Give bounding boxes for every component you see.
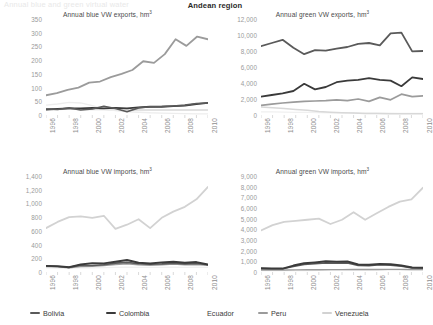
- y-tick-label: 100: [31, 84, 42, 91]
- y-tick-label: 0: [38, 269, 42, 276]
- y-tick-label: 6,000: [241, 64, 257, 71]
- legend-item-venezuela[interactable]: Venezuela: [322, 306, 369, 320]
- x-tick-label: 2002: [118, 118, 125, 133]
- x-axis-blue-exports: 19961998200020022004200620082010: [46, 118, 208, 162]
- y-tick-label: 0: [253, 269, 257, 276]
- y-tick-label: 8,000: [241, 183, 257, 190]
- legend-label: Venezuela: [335, 309, 369, 318]
- x-tick-label: 2000: [310, 118, 317, 133]
- series-canvas-blue-exports: [46, 19, 208, 115]
- legend-item-bolivia[interactable]: Bolivia: [30, 306, 64, 320]
- y-tick-label: 9,000: [241, 173, 257, 180]
- x-tick-label: 1998: [72, 118, 79, 133]
- x-tick-label: 2002: [333, 275, 340, 290]
- plot-area-green-exports: 02,0004,0006,0008,00010,00012,0001996199…: [215, 19, 430, 164]
- x-tick-label: 1996: [49, 275, 56, 290]
- y-axis-green-exports: 02,0004,0006,0008,00010,00012,000: [215, 19, 259, 115]
- series-line-peru: [261, 269, 423, 270]
- panel-blue-imports: Annual blue VW imports, hm30200400600800…: [0, 165, 215, 321]
- x-tick-label: 2004: [356, 118, 363, 133]
- chart-title-superscript: 3: [149, 10, 152, 15]
- legend-swatch-icon: [30, 312, 40, 315]
- y-tick-label: 250: [31, 43, 42, 50]
- y-tick-label: 400: [31, 241, 42, 248]
- chart-title-superscript: 3: [367, 167, 370, 172]
- series-line-venezuela: [261, 188, 423, 231]
- chart-legend: BoliviaColombiaEcuadorPeruVenezuela: [0, 306, 430, 322]
- series-line-colombia: [261, 77, 423, 96]
- legend-label: Peru: [271, 309, 286, 318]
- y-tick-label: 150: [31, 70, 42, 77]
- series-line-peru: [261, 94, 423, 105]
- y-tick-label: 4,000: [241, 80, 257, 87]
- y-tick-label: 50: [35, 98, 42, 105]
- y-tick-label: 4,000: [241, 226, 257, 233]
- panel-green-imports: Annual green VW imports, hm301,0002,0003…: [215, 165, 430, 321]
- x-tick-label: 2000: [95, 275, 102, 290]
- y-axis-blue-exports: 050100150200250300350: [0, 19, 44, 115]
- y-tick-label: 6,000: [241, 205, 257, 212]
- x-axis-green-exports: 19961998200020022004200620082010: [261, 118, 423, 162]
- x-tick-label: 1998: [287, 275, 294, 290]
- y-tick-label: 1,200: [26, 186, 42, 193]
- x-tick-label: 1998: [72, 275, 79, 290]
- series-line-peru: [46, 37, 208, 96]
- y-axis-blue-imports: 02004006008001,0001,2001,400: [0, 176, 44, 272]
- legend-label: Ecuador: [207, 309, 234, 318]
- x-tick-label: 1996: [264, 275, 271, 290]
- x-tick-label: 2010: [426, 275, 433, 290]
- x-tick-label: 2008: [402, 275, 409, 290]
- x-tick-label: 2004: [356, 275, 363, 290]
- x-tick-label: 2006: [379, 275, 386, 290]
- y-tick-label: 12,000: [237, 16, 257, 23]
- y-tick-label: 1,000: [26, 200, 42, 207]
- y-tick-label: 350: [31, 16, 42, 23]
- x-tick-label: 2010: [426, 118, 433, 133]
- panel-blue-exports: Annual blue VW exports, hm30501001502002…: [0, 8, 215, 164]
- x-tick-label: 2006: [164, 118, 171, 133]
- y-tick-label: 0: [38, 112, 42, 119]
- x-tick-label: 1998: [287, 118, 294, 133]
- x-tick-label: 2000: [95, 118, 102, 133]
- y-tick-label: 5,000: [241, 215, 257, 222]
- x-tick-label: 2008: [187, 275, 194, 290]
- panel-green-exports: Annual green VW exports, hm302,0004,0006…: [215, 8, 430, 164]
- x-tick-label: 2002: [118, 275, 125, 290]
- x-tick-label: 2000: [310, 275, 317, 290]
- x-tick-label: 2004: [141, 118, 148, 133]
- y-tick-label: 0: [253, 112, 257, 119]
- chart-title-superscript: 3: [367, 10, 370, 15]
- y-tick-label: 200: [31, 57, 42, 64]
- legend-item-ecuador[interactable]: Ecuador: [194, 306, 234, 320]
- y-tick-label: 7,000: [241, 194, 257, 201]
- y-tick-label: 200: [31, 255, 42, 262]
- plot-area-blue-imports: 02004006008001,0001,2001,400199619982000…: [0, 176, 215, 321]
- y-tick-label: 1,400: [26, 173, 42, 180]
- series-line-colombia: [261, 261, 423, 268]
- x-tick-label: 2008: [187, 118, 194, 133]
- series-canvas-green-exports: [261, 19, 423, 115]
- y-tick-label: 800: [31, 214, 42, 221]
- x-tick-label: 2008: [402, 118, 409, 133]
- y-tick-label: 8,000: [241, 48, 257, 55]
- legend-swatch-icon: [322, 312, 332, 315]
- legend-item-colombia[interactable]: Colombia: [106, 306, 149, 320]
- legend-swatch-icon: [258, 312, 268, 315]
- legend-label: Bolivia: [43, 309, 64, 318]
- y-tick-label: 2,000: [241, 247, 257, 254]
- y-tick-label: 300: [31, 29, 42, 36]
- series-line-bolivia: [261, 33, 423, 55]
- legend-label: Colombia: [119, 309, 149, 318]
- y-tick-label: 3,000: [241, 237, 257, 244]
- legend-swatch-icon: [106, 312, 116, 315]
- series-canvas-green-imports: [261, 176, 423, 272]
- x-tick-label: 2006: [164, 275, 171, 290]
- y-tick-label: 2,000: [241, 96, 257, 103]
- chart-title-superscript: 3: [149, 167, 152, 172]
- y-tick-label: 10,000: [237, 32, 257, 39]
- legend-item-peru[interactable]: Peru: [258, 306, 286, 320]
- y-tick-label: 600: [31, 227, 42, 234]
- plot-area-blue-exports: 0501001502002503003501996199820002002200…: [0, 19, 215, 164]
- x-tick-label: 2004: [141, 275, 148, 290]
